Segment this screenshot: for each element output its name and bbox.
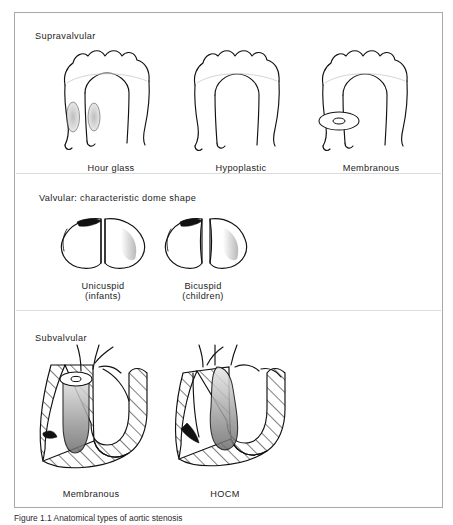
diagram-subvalvular-membranous bbox=[37, 345, 167, 473]
figure-label-text: Unicuspid bbox=[81, 281, 124, 291]
diagram-hocm bbox=[173, 345, 303, 473]
figure-label-hour-glass: Hour glass bbox=[88, 163, 135, 173]
diagram-hypoplastic bbox=[183, 41, 293, 153]
figure-label-text: Membranous bbox=[343, 163, 400, 173]
figure-label-subvalvular-membranous: Membranous bbox=[63, 489, 120, 499]
diagram-hour-glass bbox=[53, 41, 163, 153]
figure-sublabel-text: (infants) bbox=[81, 291, 124, 301]
diagram-bicuspid bbox=[160, 213, 252, 275]
figure-sublabel-text: (children) bbox=[182, 291, 223, 301]
figure-label-hypoplastic: Hypoplastic bbox=[216, 163, 267, 173]
section-divider-supravalvular bbox=[16, 173, 441, 174]
figure-label-hocm: HOCM bbox=[210, 489, 239, 499]
figure-label-unicuspid: Unicuspid (infants) bbox=[81, 281, 124, 301]
figure-label-text: Hypoplastic bbox=[216, 163, 267, 173]
diagram-unicuspid bbox=[55, 213, 151, 275]
figure-label-supravalvular-membranous: Membranous bbox=[343, 163, 400, 173]
figure-label-text: Hour glass bbox=[88, 163, 135, 173]
figure-label-text: Membranous bbox=[63, 489, 120, 499]
section-title-subvalvular: Subvalvular bbox=[35, 333, 87, 343]
section-title-valvular: Valvular: characteristic dome shape bbox=[39, 193, 196, 203]
figure-label-text: HOCM bbox=[210, 489, 239, 499]
section-title-supravalvular: Supravalvular bbox=[35, 31, 96, 41]
figure-caption: Figure 1.1 Anatomical types of aortic st… bbox=[14, 513, 443, 524]
figure-label-bicuspid: Bicuspid (children) bbox=[182, 281, 223, 301]
figure-label-text: Bicuspid bbox=[184, 281, 221, 291]
diagram-supravalvular-membranous bbox=[309, 41, 421, 153]
section-divider-valvular bbox=[16, 310, 441, 311]
figure-frame: Supravalvular Hour glass Hypoplastic bbox=[14, 12, 443, 508]
